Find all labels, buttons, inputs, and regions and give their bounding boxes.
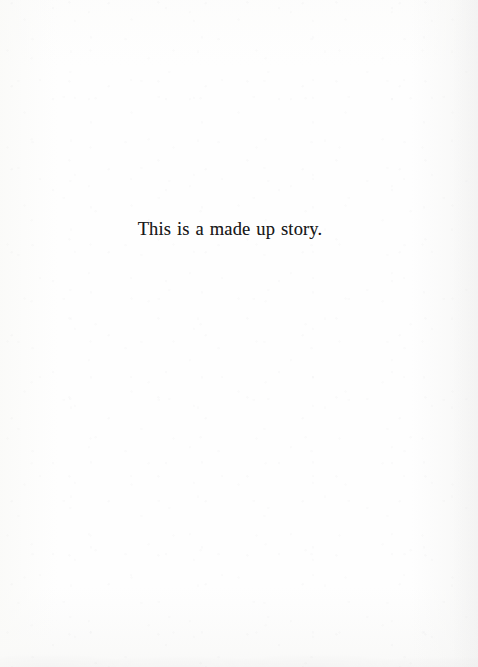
scanned-page: This is a made up story. xyxy=(0,0,478,667)
epigraph-text: This is a made up story. xyxy=(138,218,323,240)
paper-grain-texture xyxy=(0,0,478,667)
paper-right-edge-shading xyxy=(452,0,478,667)
paper-background xyxy=(0,0,478,667)
paper-bottom-edge-shading xyxy=(0,607,478,667)
epigraph-block: This is a made up story. xyxy=(0,218,478,240)
